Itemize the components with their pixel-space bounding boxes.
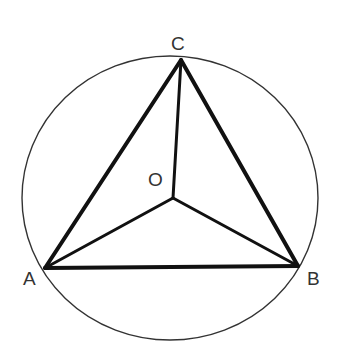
label-o: O [148,169,163,190]
segment-ca [45,60,181,268]
label-b: B [307,268,320,289]
center-segments [45,60,298,268]
label-a: A [23,268,36,289]
geometry-diagram: C O A B [0,0,341,342]
segment-oa [45,198,173,268]
label-c: C [171,33,185,54]
triangle-abc [45,60,298,268]
segment-oc [173,60,181,198]
segment-ab [45,266,298,268]
